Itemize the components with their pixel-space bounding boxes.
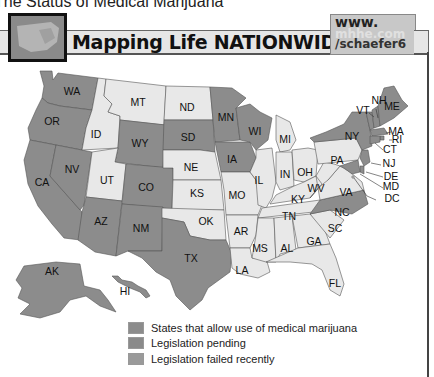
state-label-wi: WI (249, 125, 262, 137)
frame-right-border (427, 52, 429, 377)
state-ri (380, 136, 384, 140)
state-de (360, 166, 364, 174)
state-label-tn: TN (282, 210, 296, 222)
state-ct (370, 136, 380, 144)
legend: States that allow use of medical marijua… (128, 320, 357, 367)
legend-label-allow: States that allow use of medical marijua… (151, 322, 357, 334)
leader-line-nj (371, 163, 381, 165)
state-hi (112, 276, 150, 298)
state-label-ms: MS (252, 242, 268, 254)
legend-swatch-pending (128, 337, 144, 349)
state-label-mn: MN (218, 111, 234, 123)
state-label-mt: MT (130, 96, 146, 108)
us-map: WAORCANVIDMTWYUTAZCONMNDSDNEKSOKTXMNIAMO… (0, 52, 427, 332)
state-label-wv: WV (308, 182, 325, 194)
state-label-nd: ND (179, 101, 195, 113)
state-label-wa: WA (64, 85, 81, 97)
legend-label-failed: Legislation failed recently (151, 353, 275, 365)
state-label-la: LA (236, 264, 249, 276)
legend-item-pending: Legislation pending (128, 336, 357, 351)
header-title: Mapping Life NATIONWIDE (72, 31, 349, 53)
state-label-wy: WY (132, 137, 149, 149)
state-label-dc: DC (384, 192, 400, 204)
leader-line-de (366, 172, 383, 177)
legend-swatch-allow (128, 322, 144, 334)
state-label-az: AZ (94, 215, 108, 227)
state-label-sd: SD (181, 131, 196, 143)
state-label-ne: NE (184, 161, 199, 173)
state-label-tx: TX (184, 252, 197, 264)
state-label-in: IN (280, 168, 291, 180)
state-label-md: MD (383, 180, 400, 192)
state-label-id: ID (91, 128, 102, 140)
legend-item-allow: States that allow use of medical marijua… (128, 320, 357, 335)
state-label-mo: MO (229, 189, 246, 201)
state-label-hi: HI (120, 285, 131, 297)
leader-line-ct (375, 143, 383, 150)
state-ma (370, 128, 388, 136)
state-label-sc: SC (328, 222, 343, 234)
state-label-ok: OK (198, 215, 213, 227)
state-label-nv: NV (65, 163, 80, 175)
state-label-oh: OH (297, 166, 313, 178)
state-label-al: AL (281, 242, 294, 254)
state-label-co: CO (138, 181, 154, 193)
state-label-mi: MI (279, 133, 291, 145)
state-label-pa: PA (330, 154, 343, 166)
url-line-3[interactable]: /schaefer6 (335, 37, 406, 51)
legend-item-failed: Legislation failed recently (128, 351, 357, 366)
state-label-ca: CA (35, 176, 50, 188)
state-label-or: OR (44, 115, 60, 127)
state-ak (16, 262, 116, 318)
state-label-ga: GA (306, 235, 321, 247)
state-label-ct: CT (383, 143, 398, 155)
state-label-ks: KS (190, 187, 204, 199)
state-label-vt: VT (356, 104, 370, 116)
state-label-ar: AR (234, 225, 249, 237)
state-label-nm: NM (133, 222, 149, 234)
legend-swatch-failed (128, 353, 144, 365)
state-dc (352, 176, 354, 178)
state-nj (360, 150, 370, 166)
state-label-ak: AK (45, 265, 59, 277)
state-label-nj: NJ (383, 157, 396, 169)
state-label-il: IL (255, 174, 264, 186)
state-label-fl: FL (329, 277, 341, 289)
state-label-ia: IA (227, 153, 237, 165)
state-label-ny: NY (345, 130, 360, 142)
state-label-nc: NC (334, 206, 350, 218)
state-label-ky: KY (291, 193, 305, 205)
state-label-ut: UT (100, 174, 115, 186)
legend-label-pending: Legislation pending (151, 337, 246, 349)
state-label-me: ME (384, 100, 400, 112)
caption: The Status of Medical Marijuana (0, 0, 223, 11)
state-label-va: VA (339, 186, 352, 198)
